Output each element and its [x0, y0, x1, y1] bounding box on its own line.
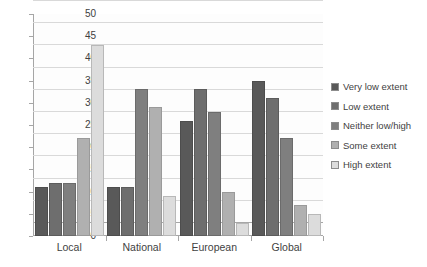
gridline [33, 0, 323, 1]
bar [135, 89, 148, 236]
bar [308, 214, 321, 236]
x-tick-mark [106, 236, 107, 241]
legend-item: High extent [331, 159, 427, 170]
legend-swatch-icon [331, 122, 339, 130]
bar-group [106, 14, 179, 236]
bar [91, 45, 104, 236]
bar [222, 192, 235, 236]
legend-item: Low extent [331, 101, 427, 112]
bar [35, 187, 48, 236]
bar [77, 138, 90, 236]
legend-label: Low extent [343, 101, 389, 112]
x-tick-mark [251, 236, 252, 241]
bar [63, 183, 76, 236]
bar [163, 196, 176, 236]
legend-swatch-icon [331, 141, 339, 149]
legend-swatch-icon [331, 161, 339, 169]
bar [149, 107, 162, 236]
bar [49, 183, 62, 236]
legend-item: Neither low/high [331, 120, 427, 131]
x-axis-label-european: European [178, 241, 251, 253]
x-axis-label-local: Local [33, 241, 106, 253]
bar [294, 205, 307, 236]
x-tick-mark [178, 236, 179, 241]
bar-group [178, 14, 251, 236]
legend-swatch-icon [331, 102, 339, 110]
x-tick-mark [323, 236, 324, 241]
bar [194, 89, 207, 236]
x-axis-label-global: Global [251, 241, 324, 253]
legend-label: Very low extent [343, 81, 407, 92]
bar [121, 187, 134, 236]
bar-group [33, 14, 106, 236]
legend-item: Some extent [331, 140, 427, 151]
legend-item: Very low extent [331, 81, 427, 92]
bars-layer [33, 14, 323, 236]
bar-group [251, 14, 324, 236]
bar [180, 121, 193, 236]
legend-label: Some extent [343, 140, 396, 151]
bar [280, 138, 293, 236]
legend-label: High extent [343, 159, 391, 170]
bar [252, 81, 265, 236]
x-axis-label-national: National [106, 241, 179, 253]
chart-legend: Very low extentLow extentNeither low/hig… [331, 81, 427, 179]
bar [236, 223, 249, 236]
bar-chart: 05101520253035404550 LocalNationalEurope… [0, 0, 427, 267]
legend-swatch-icon [331, 83, 339, 91]
bar [208, 112, 221, 236]
y-tick-mark [29, 236, 33, 237]
bar [107, 187, 120, 236]
legend-label: Neither low/high [343, 120, 411, 131]
bar [266, 98, 279, 236]
